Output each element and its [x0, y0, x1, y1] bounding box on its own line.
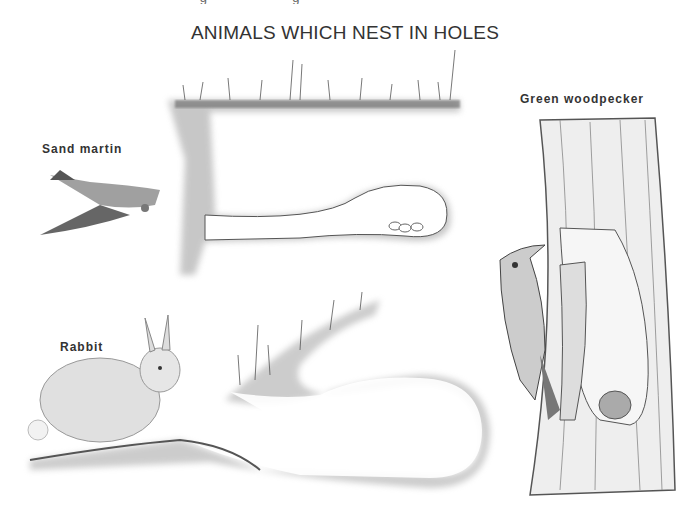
woodpecker-tree-illustration: [500, 118, 675, 495]
illustration: [0, 0, 690, 508]
sand-martin-bird-illustration: [40, 170, 160, 235]
rabbit-illustration: [28, 315, 180, 442]
sand-martin-burrow-illustration: [168, 50, 460, 275]
